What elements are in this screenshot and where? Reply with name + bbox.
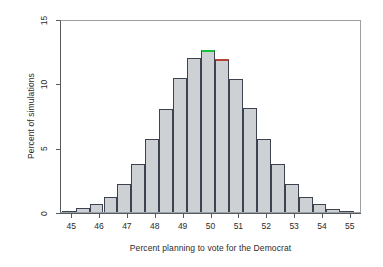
x-tick-label: 55: [339, 221, 361, 232]
y-tick-label: 15: [39, 9, 50, 31]
y-axis-label: Percent of simulations: [22, 10, 40, 222]
y-tick-label: 0: [39, 202, 50, 224]
x-tick-mark: [322, 214, 323, 218]
plot-area: [60, 20, 361, 213]
histogram-bar: [229, 79, 243, 212]
x-tick-label: 47: [116, 221, 138, 232]
x-tick-label: 53: [283, 221, 305, 232]
x-tick-label: 48: [144, 221, 166, 232]
x-tick-mark: [183, 214, 184, 218]
histogram-bar: [131, 164, 145, 212]
x-tick-mark: [71, 214, 72, 218]
histogram-figure: Percent of simulations 051015 4546474849…: [0, 0, 383, 267]
y-tick-label: 10: [39, 73, 50, 95]
x-tick-label: 54: [311, 221, 333, 232]
histogram-bar: [90, 204, 104, 212]
x-tick-mark: [127, 214, 128, 218]
x-tick-mark: [238, 214, 239, 218]
histogram-bar: [201, 50, 215, 212]
histogram-bar: [173, 78, 187, 212]
histogram-bar: [145, 139, 159, 212]
histogram-bar: [285, 184, 299, 212]
histogram-bar: [104, 197, 118, 212]
x-axis-label: Percent planning to vote for the Democra…: [60, 242, 361, 254]
x-tick-label: 49: [172, 221, 194, 232]
histogram-bar: [62, 211, 76, 212]
x-tick-mark: [211, 214, 212, 218]
histogram-bar: [271, 164, 285, 212]
x-tick-mark: [266, 214, 267, 218]
histogram-bar: [159, 109, 173, 212]
histogram-bar: [117, 184, 131, 212]
histogram-bar: [257, 139, 271, 212]
histogram-bar: [215, 59, 229, 212]
x-tick-label: 50: [200, 221, 222, 232]
histogram-bar: [187, 58, 201, 212]
histogram-bar: [326, 209, 340, 212]
x-tick-label: 45: [60, 221, 82, 232]
x-tick-mark: [350, 214, 351, 218]
x-tick-label: 46: [88, 221, 110, 232]
histogram-bar: [76, 208, 90, 212]
histogram-bar: [340, 211, 354, 212]
x-tick-mark: [155, 214, 156, 218]
histogram-bar: [313, 204, 327, 212]
x-tick-mark: [294, 214, 295, 218]
x-tick-label: 52: [255, 221, 277, 232]
y-tick-label: 5: [39, 138, 50, 160]
x-tick-mark: [99, 214, 100, 218]
histogram-bar: [299, 197, 313, 212]
histogram-bar: [243, 108, 257, 212]
x-tick-label: 51: [227, 221, 249, 232]
